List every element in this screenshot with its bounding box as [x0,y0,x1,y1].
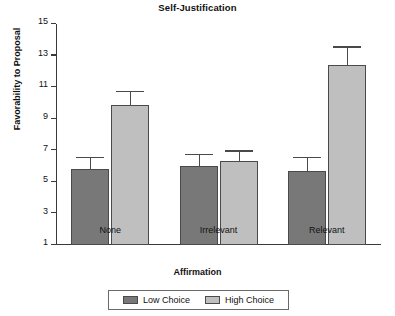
x-axis-title: Affirmation [0,267,395,277]
error-bar-cap [333,46,361,47]
y-tick-label: 15 [38,16,48,26]
legend-entry-low-choice[interactable]: Low Choice [123,295,190,305]
y-tick: 11 [51,86,56,87]
legend-label: High Choice [225,295,274,305]
y-tick: 1 [51,244,56,245]
error-bar-stem [239,152,240,161]
legend-entry-high-choice[interactable]: High Choice [205,295,274,305]
bar-high-choice-relevant [328,65,366,245]
chart-title: Self-Justification [0,2,395,13]
error-bar-cap [293,157,321,158]
legend-swatch-icon [123,296,138,304]
legend-swatch-icon [205,296,220,304]
y-tick-label: 11 [39,79,48,89]
error-bar-cap [225,150,253,151]
y-tick: 13 [51,54,56,55]
y-axis-line [56,24,57,245]
y-tick-label: 7 [43,143,48,153]
y-tick-label: 5 [43,174,48,184]
x-tick-label-none: None [60,225,160,235]
x-tick-label-relevant: Relevant [277,225,377,235]
y-tick: 7 [51,149,56,150]
error-bar-cap [116,91,144,92]
plot-area: 13579111315 [56,24,381,245]
y-axis-title: Favorability to Proposal [12,4,22,154]
y-tick: 3 [51,212,56,213]
y-tick-label: 9 [43,111,48,121]
error-bar-stem [199,155,200,166]
chart-legend: Low ChoiceHigh Choice [108,290,289,310]
error-bar-cap [185,154,213,155]
y-tick: 15 [51,23,56,24]
chart-figure: Self-Justification Favorability to Propo… [0,0,395,316]
error-bar-cap [76,157,104,158]
bar-high-choice-none [111,105,149,245]
y-tick-label: 1 [43,237,48,247]
y-tick-label: 3 [43,206,48,216]
y-tick-label: 13 [38,48,48,58]
y-tick: 5 [51,181,56,182]
y-tick: 9 [51,118,56,119]
error-bar-stem [307,158,308,171]
error-bar-stem [130,92,131,105]
legend-label: Low Choice [143,295,190,305]
error-bar-stem [347,48,348,65]
error-bar-stem [90,158,91,169]
x-tick-label-irrelevant: Irrelevant [169,225,269,235]
